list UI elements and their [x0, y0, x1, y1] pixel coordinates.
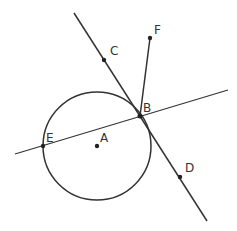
label-F: F — [154, 23, 161, 37]
point-F — [148, 36, 152, 40]
point-C — [102, 58, 106, 62]
label-C: C — [110, 44, 118, 58]
label-B: B — [143, 101, 151, 115]
point-B — [138, 114, 143, 119]
label-A: A — [100, 131, 109, 145]
point-A — [95, 144, 99, 148]
point-E — [41, 144, 45, 148]
label-E: E — [46, 131, 54, 145]
point-D — [178, 175, 182, 179]
label-D: D — [185, 161, 194, 175]
geometry-diagram: A B C D E F — [0, 0, 237, 231]
